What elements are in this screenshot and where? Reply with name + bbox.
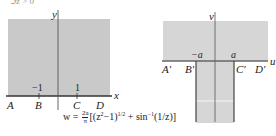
formula-part2: −1) <box>104 111 118 122</box>
y-axis-label: y <box>52 9 57 20</box>
point-label-A-prime: A′ <box>162 64 171 75</box>
point-label-B: B <box>35 100 42 111</box>
formula-part1: [(z <box>89 111 100 122</box>
z-plane-diagram <box>0 0 140 110</box>
frac-denominator: π <box>82 118 89 125</box>
formula-lhs: w = <box>63 111 78 122</box>
point-label-C-prime: C′ <box>236 64 246 75</box>
tick-label-a: a <box>231 50 236 60</box>
tick-label-minus-a: −a <box>191 50 203 60</box>
x-axis-label: x <box>114 90 119 101</box>
point-label-D-prime: D′ <box>255 64 265 75</box>
formula-fraction: 2a π <box>82 110 89 125</box>
v-axis-label: v <box>209 11 214 22</box>
point-label-A: A <box>7 100 14 111</box>
point-label-B-prime: B′ <box>185 64 194 75</box>
tick-label-1: 1 <box>75 83 80 93</box>
upper-half-plane-region <box>8 19 110 96</box>
upper-region <box>163 21 268 61</box>
tick-label-minus-1: −1 <box>32 83 43 93</box>
u-axis-label: u <box>270 56 276 67</box>
